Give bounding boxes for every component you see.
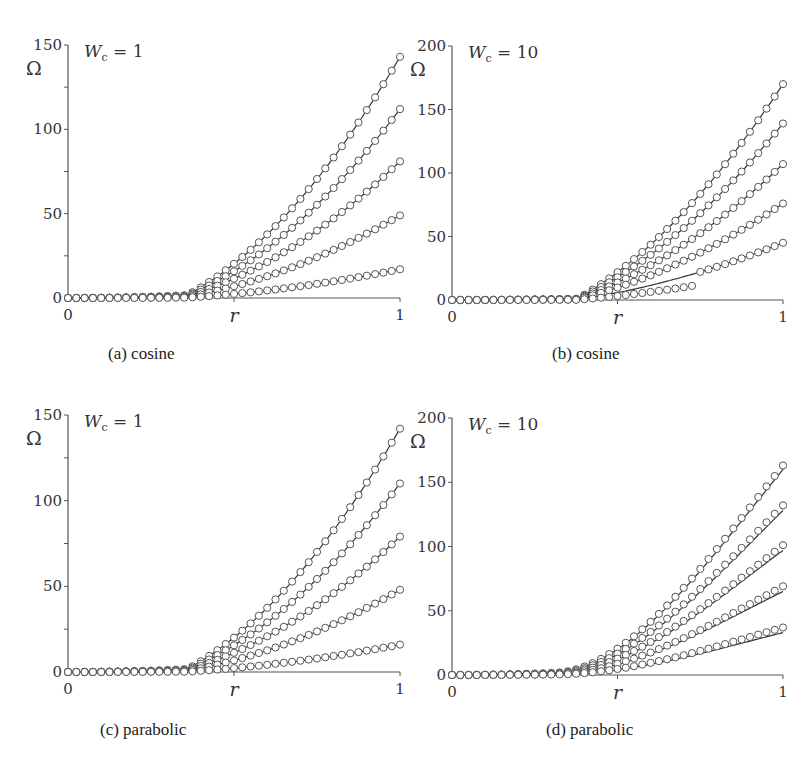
data-marker <box>647 272 654 279</box>
data-marker <box>363 604 370 611</box>
data-marker <box>305 559 312 566</box>
data-marker <box>322 654 329 661</box>
data-marker <box>214 666 221 673</box>
data-marker <box>779 583 786 590</box>
data-marker <box>779 81 786 88</box>
data-marker <box>272 644 279 651</box>
data-marker <box>680 635 687 642</box>
data-marker <box>639 266 646 273</box>
data-marker <box>247 278 254 285</box>
data-marker <box>255 625 262 632</box>
data-marker <box>482 296 489 303</box>
data-marker <box>506 671 513 678</box>
data-marker <box>746 221 753 228</box>
data-marker <box>264 231 271 238</box>
data-marker <box>680 601 687 608</box>
data-marker <box>713 217 720 224</box>
data-marker <box>705 645 712 652</box>
data-marker <box>755 150 762 157</box>
data-marker <box>255 251 262 258</box>
data-marker <box>380 501 387 508</box>
data-marker <box>771 626 778 633</box>
data-marker <box>614 292 621 299</box>
data-marker <box>305 607 312 614</box>
data-marker <box>338 651 345 658</box>
data-marker <box>222 665 229 672</box>
data-marker <box>755 183 762 190</box>
data-marker <box>722 211 729 218</box>
data-marker <box>280 285 287 292</box>
series-1 <box>64 53 403 301</box>
data-marker <box>297 591 304 598</box>
data-marker <box>755 631 762 638</box>
data-marker <box>655 287 662 294</box>
data-marker <box>639 643 646 650</box>
data-marker <box>771 130 778 137</box>
data-marker <box>523 296 530 303</box>
data-marker <box>738 226 745 233</box>
data-marker <box>664 615 671 622</box>
data-marker <box>264 661 271 668</box>
x-tick-label: 1 <box>778 308 788 326</box>
data-marker <box>131 294 138 301</box>
data-marker <box>630 290 637 297</box>
data-marker <box>330 652 337 659</box>
data-marker <box>388 267 395 274</box>
data-marker <box>239 654 246 661</box>
data-marker <box>322 279 329 286</box>
y-tick-label: 200 <box>417 409 446 427</box>
data-marker <box>363 107 370 114</box>
data-marker <box>81 294 88 301</box>
data-marker <box>355 195 362 202</box>
data-marker <box>630 263 637 270</box>
data-marker <box>597 668 604 675</box>
data-marker <box>347 202 354 209</box>
data-marker <box>297 283 304 290</box>
data-marker <box>614 284 621 291</box>
data-marker <box>313 227 320 234</box>
data-marker <box>705 622 712 629</box>
data-marker <box>189 294 196 301</box>
data-marker <box>338 583 345 590</box>
data-marker <box>330 590 337 597</box>
data-marker <box>313 602 320 609</box>
data-marker <box>239 645 246 652</box>
data-marker <box>722 535 729 542</box>
data-marker <box>114 668 121 675</box>
data-marker <box>779 462 786 469</box>
data-marker <box>380 548 387 555</box>
data-marker <box>697 210 704 217</box>
data-marker <box>655 610 662 617</box>
data-marker <box>755 493 762 500</box>
data-marker <box>763 176 770 183</box>
data-marker <box>156 668 163 675</box>
data-marker <box>280 267 287 274</box>
series-1 <box>448 462 786 679</box>
data-marker <box>779 161 786 168</box>
data-marker <box>313 628 320 635</box>
data-marker <box>305 233 312 240</box>
data-marker <box>114 294 121 301</box>
data-marker <box>197 293 204 300</box>
data-marker <box>388 591 395 598</box>
data-marker <box>305 583 312 590</box>
data-marker <box>539 296 546 303</box>
y-tick-label: 100 <box>417 538 446 556</box>
data-marker <box>779 502 786 509</box>
data-marker <box>280 605 287 612</box>
data-marker <box>230 642 237 649</box>
data-marker <box>697 565 704 572</box>
data-marker <box>98 668 105 675</box>
data-marker <box>372 646 379 653</box>
data-marker <box>738 139 745 146</box>
data-marker <box>465 671 472 678</box>
data-marker <box>388 491 395 498</box>
data-marker <box>372 600 379 607</box>
data-marker <box>523 671 530 678</box>
data-marker <box>255 612 262 619</box>
data-marker <box>730 553 737 560</box>
data-marker <box>746 536 753 543</box>
data-marker <box>330 154 337 161</box>
data-marker <box>630 655 637 662</box>
y-tick-label: 50 <box>43 577 62 595</box>
